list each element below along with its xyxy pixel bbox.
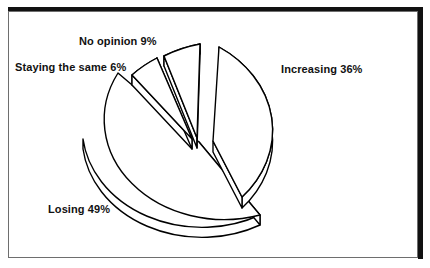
slice-label-increasing: Increasing 36% [281, 63, 363, 75]
slice-label-staying-the-same: Staying the same 6% [15, 61, 126, 73]
slice-label-no-opinion: No opinion 9% [79, 35, 157, 47]
page-canvas: No opinion 9% Staying the same 6% Increa… [0, 0, 430, 268]
slice-label-losing: Losing 49% [48, 203, 110, 215]
pie-chart [0, 0, 430, 268]
